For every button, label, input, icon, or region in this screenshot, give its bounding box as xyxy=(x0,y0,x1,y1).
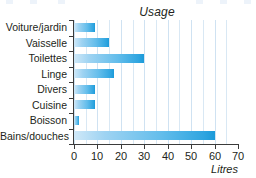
bar xyxy=(74,100,95,109)
x-axis-tick xyxy=(215,145,216,149)
x-axis-tick-labels: 010203040506070 xyxy=(0,150,256,164)
y-axis-tick xyxy=(69,36,74,37)
plot-area xyxy=(74,20,238,144)
y-axis-tick xyxy=(69,51,74,52)
y-axis-label-toilettes: Toilettes xyxy=(0,53,67,64)
x-axis-tick xyxy=(191,145,192,149)
y-axis-label-voiture-jardin: Voiture/jardin xyxy=(0,22,67,33)
bar-row xyxy=(74,20,238,36)
bar-row xyxy=(74,67,238,83)
bar-row xyxy=(74,129,238,145)
bar xyxy=(74,131,215,140)
y-axis-tick xyxy=(69,129,74,130)
x-axis-tick xyxy=(121,145,122,149)
bar xyxy=(74,54,144,63)
y-axis-tick xyxy=(69,82,74,83)
y-axis-ticks xyxy=(69,20,74,144)
y-axis-labels: Voiture/jardinVaisselleToilettesLingeDiv… xyxy=(0,20,67,144)
x-axis-tick-label: 70 xyxy=(223,150,253,163)
y-axis-tick xyxy=(69,98,74,99)
y-axis-tick xyxy=(69,20,74,21)
y-axis-label-vaisselle: Vaisselle xyxy=(0,38,67,49)
bars-group xyxy=(74,20,238,144)
x-axis-tick xyxy=(74,145,75,149)
x-axis-tick xyxy=(144,145,145,149)
bar-row xyxy=(74,51,238,67)
bar xyxy=(74,69,114,78)
x-axis-title: Litres xyxy=(120,163,238,176)
x-axis-tick xyxy=(97,145,98,149)
y-axis-label-bains-douches: Bains/douches xyxy=(0,131,67,142)
bar xyxy=(74,38,109,47)
y-axis-tick xyxy=(69,113,74,114)
y-axis-label-boisson: Boisson xyxy=(0,115,67,126)
bar xyxy=(74,116,79,125)
x-axis-tick xyxy=(168,145,169,149)
bar-row xyxy=(74,113,238,129)
chart-title: Usage xyxy=(74,6,240,19)
bar-row xyxy=(74,98,238,114)
usage-bar-chart: Usage Voiture/jardinVaisselleToilettesLi… xyxy=(0,0,256,178)
y-axis-label-linge: Linge xyxy=(0,69,67,80)
bar-row xyxy=(74,82,238,98)
y-axis-label-divers: Divers xyxy=(0,84,67,95)
y-axis-tick xyxy=(69,67,74,68)
y-axis-label-cuisine: Cuisine xyxy=(0,100,67,111)
bar xyxy=(74,23,95,32)
x-axis-tick xyxy=(238,145,239,149)
bar xyxy=(74,85,95,94)
bar-row xyxy=(74,36,238,52)
